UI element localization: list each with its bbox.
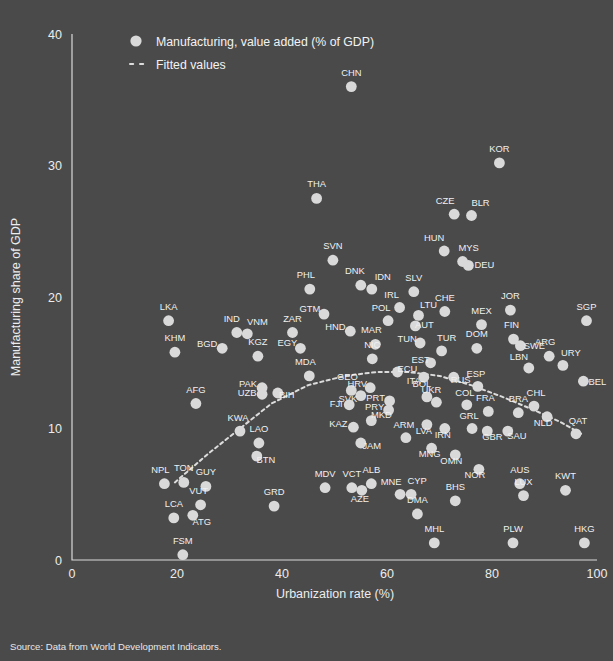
point-label-FJI: FJI xyxy=(330,398,343,409)
point-label-AUT: AUT xyxy=(415,319,434,330)
point-label-LKA: LKA xyxy=(160,301,178,312)
marker-PLW xyxy=(508,538,519,549)
marker-IRL xyxy=(394,302,405,313)
marker-VCT xyxy=(346,482,357,493)
point-label-VUT: VUT xyxy=(189,485,208,496)
marker-ALB xyxy=(366,478,377,489)
y-tick-20: 20 xyxy=(48,291,62,305)
point-label-EGY: EGY xyxy=(277,337,298,348)
point-label-HND: HND xyxy=(325,321,346,332)
point-label-CYP: CYP xyxy=(407,475,426,486)
data-point-URY: URY xyxy=(558,347,582,370)
marker-KAZ xyxy=(348,422,359,433)
point-label-BHS: BHS xyxy=(446,481,465,492)
data-point-TUR: TUR xyxy=(436,332,456,356)
data-point-KOR: KOR xyxy=(489,143,510,168)
point-label-GRL: GRL xyxy=(459,410,478,421)
data-point-KAZ: KAZ xyxy=(329,418,359,432)
point-label-GBR: GBR xyxy=(482,431,503,442)
data-point-BEL: BEL xyxy=(578,376,606,387)
marker-ZAR xyxy=(287,327,298,338)
data-point-HUN: HUN xyxy=(424,232,450,256)
data-point-QAT: QAT xyxy=(569,415,588,439)
data-point-THA: THA xyxy=(307,178,326,203)
point-label-DMA: DMA xyxy=(407,494,429,505)
point-label-MNG: MNG xyxy=(419,448,441,459)
marker-CHN xyxy=(346,81,357,92)
marker-TUR xyxy=(436,346,447,357)
data-point-FSM: FSM xyxy=(173,535,193,560)
point-label-ALB: ALB xyxy=(362,464,380,475)
data-point-DEU: DEU xyxy=(463,259,495,270)
y-tick-0: 0 xyxy=(55,554,62,568)
data-point-IND: IND xyxy=(224,313,242,338)
point-label-KHM: KHM xyxy=(164,332,185,343)
marker-CHE xyxy=(439,306,450,317)
point-label-THA: THA xyxy=(307,178,326,189)
point-label-NOR: NOR xyxy=(464,469,485,480)
point-label-BGD: BGD xyxy=(197,338,218,349)
data-point-DOM: DOM xyxy=(466,328,488,353)
data-point-NOR: NOR xyxy=(464,464,485,480)
data-point-COL: COL xyxy=(455,387,474,410)
marker-ARM xyxy=(401,432,412,443)
point-label-AFG: AFG xyxy=(186,384,205,395)
legend-marker-scatter xyxy=(130,35,141,46)
marker-UKR xyxy=(431,397,442,408)
y-tick-30: 30 xyxy=(48,159,62,173)
point-label-MYS: MYS xyxy=(458,242,478,253)
legend-label-scatter: Manufacturing, value added (% of GDP) xyxy=(156,35,374,49)
marker-CZE xyxy=(449,209,460,220)
data-point-AFG: AFG xyxy=(186,384,205,409)
point-label-LVA: LVA xyxy=(416,425,433,436)
marker-GRL xyxy=(467,423,478,434)
data-point-CHN: CHN xyxy=(341,67,361,92)
point-label-UKR: UKR xyxy=(422,384,442,395)
point-label-ARG: ARG xyxy=(535,336,555,347)
point-label-COL: COL xyxy=(455,387,474,398)
data-point-UZB: UZB xyxy=(238,387,268,399)
point-label-BTN: BTN xyxy=(256,454,275,465)
point-label-ESP: ESP xyxy=(466,368,485,379)
data-point-CZE: CZE xyxy=(436,195,460,219)
marker-HKG xyxy=(579,538,590,549)
data-point-ATG: ATG xyxy=(187,510,211,527)
marker-MHL xyxy=(429,538,440,549)
marker-AFG xyxy=(191,398,202,409)
point-label-POL: POL xyxy=(372,302,391,313)
point-label-SGP: SGP xyxy=(577,301,597,312)
marker-VUT xyxy=(195,499,206,510)
point-label-LBN: LBN xyxy=(510,351,528,362)
marker-ARG xyxy=(544,351,555,362)
point-label-FSM: FSM xyxy=(173,535,193,546)
point-label-GRD: GRD xyxy=(264,486,285,497)
marker-CHL xyxy=(529,401,540,412)
point-label-GTM: GTM xyxy=(300,303,321,314)
y-tick-40: 40 xyxy=(48,28,62,42)
marker-IDN xyxy=(366,284,377,295)
point-label-IRL: IRL xyxy=(384,289,399,300)
data-point-BTN: BTN xyxy=(251,451,275,465)
data-point-LAO: LAO xyxy=(250,423,269,448)
marker-BLR xyxy=(466,210,477,221)
data-point-MNG: MNG xyxy=(419,443,441,459)
point-label-MDV: MDV xyxy=(315,468,337,479)
point-label-IND: IND xyxy=(224,313,240,324)
data-point-BIH: BIH xyxy=(272,388,294,400)
data-point-MHL: MHL xyxy=(424,523,444,548)
data-point-VUT: VUT xyxy=(189,485,208,510)
data-point-ARM: ARM xyxy=(393,419,414,443)
data-point-IRN: IRN xyxy=(435,423,451,439)
chart-legend: Manufacturing, value added (% of GDP) Fi… xyxy=(130,35,374,72)
point-label-SLV: SLV xyxy=(405,272,423,283)
point-label-CZE: CZE xyxy=(436,195,455,206)
point-label-TUR: TUR xyxy=(437,332,456,343)
data-point-OMN: OMN xyxy=(440,449,462,465)
point-label-SAU: SAU xyxy=(507,430,527,441)
marker-FSM xyxy=(177,549,188,560)
data-point-FRA: FRA xyxy=(476,392,495,416)
marker-NIC xyxy=(367,353,378,364)
x-tick-0: 0 xyxy=(69,567,76,581)
data-point-GTM: GTM xyxy=(300,303,330,319)
point-label-GUY: GUY xyxy=(196,466,217,477)
